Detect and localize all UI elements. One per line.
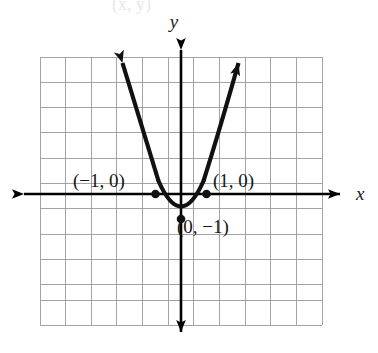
point-marker-right-root xyxy=(202,190,211,199)
y-axis-label: y xyxy=(168,11,179,32)
cropped-top-label: (x, y) xyxy=(112,0,151,15)
label-vertex: (0, −1) xyxy=(177,216,229,238)
label-left-root: (−1, 0) xyxy=(73,170,125,192)
label-right-root: (1, 0) xyxy=(213,170,254,192)
coordinate-plane-svg: (x, y) y x (−1, 0) (1, 0) (0, −1) xyxy=(0,0,378,353)
point-marker-left-root xyxy=(151,190,160,199)
axes-lines xyxy=(24,50,340,332)
graph-figure: (x, y) y x (−1, 0) (1, 0) (0, −1) xyxy=(0,0,378,353)
x-axis-label: x xyxy=(355,183,365,204)
